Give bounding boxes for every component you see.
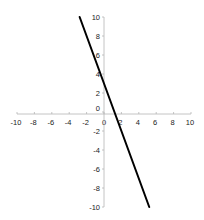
y-tick-label: 6 — [96, 51, 100, 60]
y-tick-label: -8 — [93, 184, 100, 193]
x-axis: -10-8-6-4-20246810 — [11, 112, 195, 127]
x-tick-label: 8 — [171, 118, 175, 127]
y-tick-label: 8 — [96, 32, 100, 41]
y-tick-label: 10 — [92, 13, 100, 22]
y-tick-label: 0 — [96, 104, 100, 113]
x-tick-label: -8 — [30, 118, 37, 127]
y-tick-label: -4 — [93, 146, 100, 155]
x-tick-label: -2 — [82, 118, 89, 127]
x-tick-label: -10 — [11, 118, 22, 127]
y-tick-label: -2 — [93, 127, 100, 136]
x-tick-label: -4 — [65, 118, 72, 127]
y-tick-label: -10 — [89, 203, 100, 212]
x-tick-label: 4 — [136, 118, 140, 127]
y-axis: -10-8-6-4-20246810 — [89, 13, 104, 212]
line-chart: -10-8-6-4-20246810 -10-8-6-4-20246810 — [0, 0, 204, 220]
x-tick-label: 6 — [153, 118, 157, 127]
x-tick-label: -6 — [47, 118, 54, 127]
y-tick-label: 2 — [96, 89, 100, 98]
x-tick-label: 10 — [186, 118, 194, 127]
y-tick-label: -6 — [93, 165, 100, 174]
